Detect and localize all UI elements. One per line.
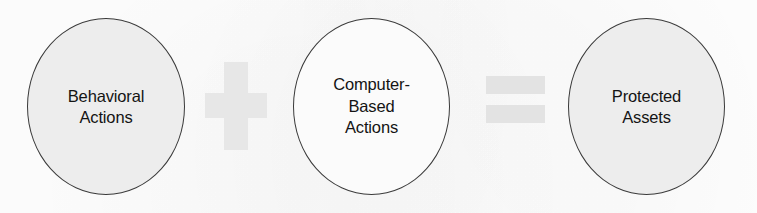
equals-icon: [486, 76, 545, 123]
diagram-canvas: Behavioral Actions Computer- Based Actio…: [0, 0, 757, 213]
node-protected-assets: Protected Assets: [568, 18, 725, 195]
node-behavioral-actions: Behavioral Actions: [27, 18, 185, 195]
node-protected-assets-label: Protected Assets: [612, 86, 681, 128]
node-behavioral-actions-label: Behavioral Actions: [68, 86, 144, 128]
node-computer-based-actions: Computer- Based Actions: [293, 18, 450, 195]
equals-icon-top-bar: [486, 76, 545, 94]
node-computer-based-actions-label: Computer- Based Actions: [333, 74, 410, 138]
equals-icon-bottom-bar: [486, 105, 545, 123]
plus-icon-vertical-bar: [224, 62, 248, 150]
plus-icon: [205, 62, 267, 150]
